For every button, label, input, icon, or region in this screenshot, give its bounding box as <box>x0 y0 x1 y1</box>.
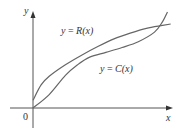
series-label-R-arg: (x) <box>82 25 94 37</box>
series-label-C-arg: (x) <box>122 63 134 75</box>
series-label-R-fn: R <box>75 25 82 36</box>
curves-group <box>33 12 171 108</box>
x-axis-label: x <box>165 112 171 123</box>
y-axis-label: y <box>23 5 29 16</box>
curve-C <box>33 12 167 108</box>
x-axis-arrow-icon <box>166 106 173 111</box>
labels: y x 0 y = R(x) y = C(x) <box>23 5 171 123</box>
y-axis-arrow-icon <box>31 11 36 18</box>
series-label-R: y = R(x) <box>60 25 94 37</box>
origin-label: 0 <box>23 111 28 122</box>
cost-revenue-chart: y x 0 y = R(x) y = C(x) <box>0 0 182 135</box>
series-label-C: y = C(x) <box>99 63 134 75</box>
series-label-C-eq: = <box>104 63 115 74</box>
series-label-R-eq: = <box>65 25 76 36</box>
